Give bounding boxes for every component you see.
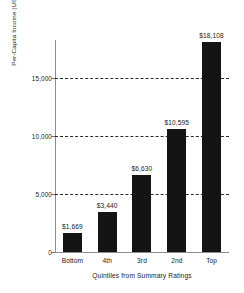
bar[interactable] [98, 212, 117, 252]
bar[interactable] [63, 233, 82, 252]
x-axis-ticks: Bottom4th3rd2ndTop [55, 256, 229, 268]
bar-value-label: $6,630 [132, 165, 153, 173]
bar-value-label: $1,669 [62, 223, 83, 231]
y-tick-label-wrap: 15,000 [14, 75, 52, 82]
bar[interactable] [202, 42, 221, 252]
x-axis-line [55, 252, 229, 253]
x-tick-label: Bottom [62, 256, 84, 265]
y-tick-label: 0 [18, 249, 52, 256]
y-tick-label-wrap: 10,000 [14, 133, 52, 140]
y-tick-label-wrap: 5,000 [14, 191, 52, 198]
x-tick-label: Top [206, 256, 217, 265]
bar[interactable] [167, 129, 186, 252]
y-tick-label: 5,000 [18, 191, 52, 198]
bar-group: $18,108 [194, 40, 229, 252]
bar-group: $1,669 [55, 40, 90, 252]
y-tick-label-wrap: 0 [14, 249, 52, 256]
bar[interactable] [132, 175, 151, 252]
bar-group: $6,630 [125, 40, 160, 252]
y-tick-label: 15,000 [18, 75, 52, 82]
bar-chart: Per-Capita Income (US$, PPP) 05,00010,00… [0, 0, 244, 293]
bar-value-label: $10,595 [165, 119, 190, 127]
bars-layer: $1,669$3,440$6,630$10,595$18,108 [55, 40, 229, 252]
bar-value-label: $3,440 [97, 202, 118, 210]
bar-group: $10,595 [159, 40, 194, 252]
bar-value-label: $18,108 [199, 32, 224, 40]
bar-group: $3,440 [90, 40, 125, 252]
x-tick-label: 2nd [171, 256, 182, 265]
y-tick-label: 10,000 [18, 133, 52, 140]
x-tick-label: 4th [102, 256, 111, 265]
y-tick-mark [51, 252, 55, 253]
x-tick-label: 3rd [137, 256, 147, 265]
x-axis-title: Quintiles from Summary Ratings [55, 271, 229, 280]
